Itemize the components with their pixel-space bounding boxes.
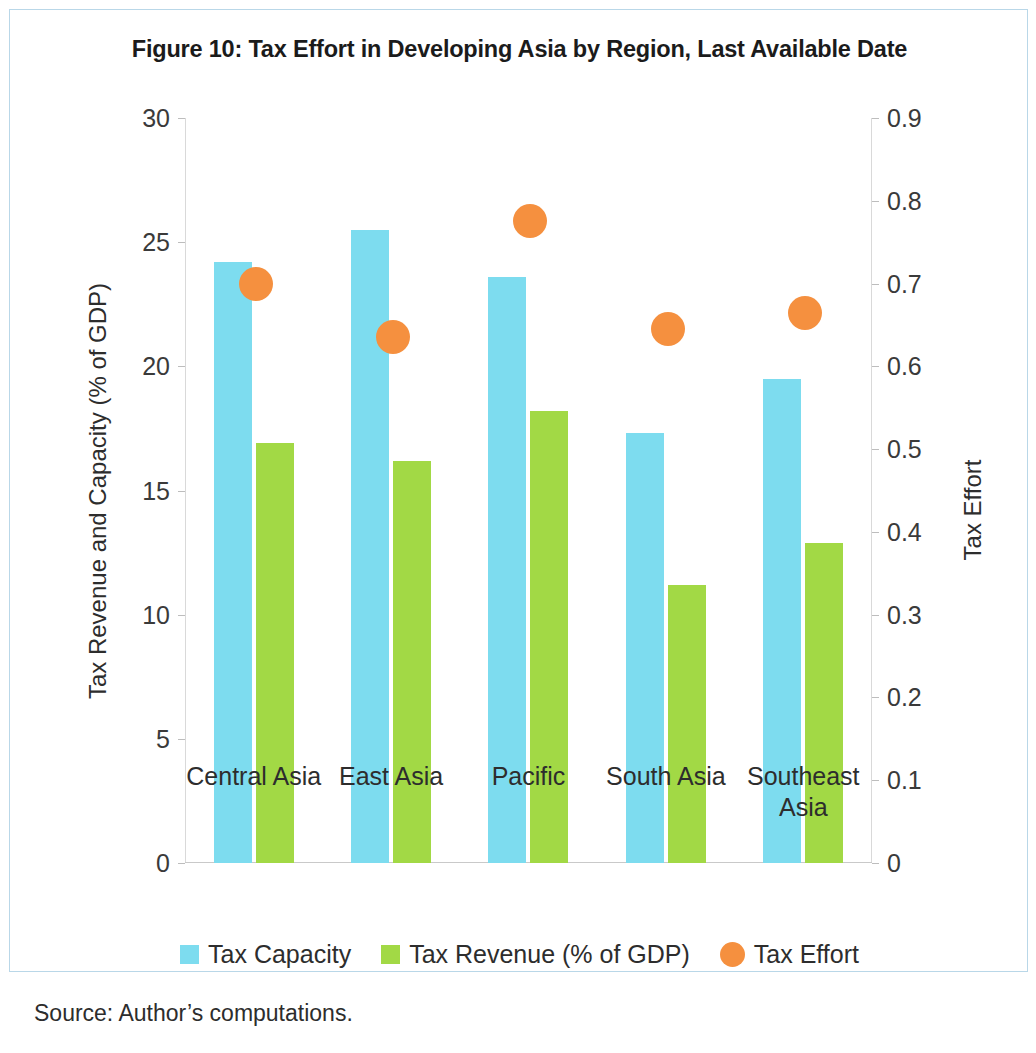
bar-group — [460, 118, 597, 863]
right-axis-tick — [872, 366, 879, 367]
legend-item: Tax Capacity — [180, 940, 351, 969]
right-axis-tick-label: 0.4 — [887, 517, 922, 546]
right-axis-tick-label: 0.2 — [887, 683, 922, 712]
right-axis-tick-label: 0.9 — [887, 104, 922, 133]
legend-square-icon — [180, 945, 199, 964]
right-axis-tick-label: 0.6 — [887, 352, 922, 381]
left-axis-tick-label: 0 — [156, 849, 170, 878]
bar-group — [185, 118, 322, 863]
dot-tax-effort — [651, 312, 685, 346]
bar-tax-capacity — [626, 433, 664, 863]
left-axis-tick-label: 15 — [142, 476, 170, 505]
bar-group — [322, 118, 459, 863]
left-axis-tick — [178, 491, 185, 492]
bar-tax-revenue — [668, 585, 706, 863]
bar-group — [597, 118, 734, 863]
figure-frame: Figure 10: Tax Effort in Developing Asia… — [9, 9, 1028, 972]
dot-tax-effort — [239, 267, 273, 301]
legend-label: Tax Capacity — [208, 940, 351, 969]
left-axis-title-text: Tax Revenue and Capacity (% of GDP) — [84, 282, 112, 698]
dot-tax-effort — [788, 296, 822, 330]
right-axis-tick — [872, 615, 879, 616]
left-axis-tick — [178, 739, 185, 740]
right-axis-tick-label: 0.7 — [887, 269, 922, 298]
figure-page: Figure 10: Tax Effort in Developing Asia… — [0, 0, 1036, 1053]
right-axis-tick — [872, 697, 879, 698]
right-axis-tick-label: 0.1 — [887, 766, 922, 795]
chart-legend: Tax CapacityTax Revenue (% of GDP)Tax Ef… — [10, 940, 1029, 969]
left-axis-tick-label: 25 — [142, 228, 170, 257]
bar-group — [735, 118, 872, 863]
right-axis-tick-label: 0.5 — [887, 435, 922, 464]
plot-area: 051015202530 00.10.20.30.40.50.60.70.80.… — [185, 118, 872, 863]
right-axis-tick — [872, 532, 879, 533]
right-axis-title: Tax Effort — [958, 390, 988, 630]
dot-tax-effort — [513, 204, 547, 238]
right-axis-tick — [872, 449, 879, 450]
bar-tax-revenue — [530, 411, 568, 863]
left-axis-tick-label: 10 — [142, 600, 170, 629]
legend-item: Tax Effort — [720, 940, 859, 969]
left-axis-tick — [178, 242, 185, 243]
right-axis-tick — [872, 201, 879, 202]
figure-title: Figure 10: Tax Effort in Developing Asia… — [10, 36, 1029, 63]
legend-square-icon — [381, 945, 400, 964]
left-axis-tick-label: 5 — [156, 724, 170, 753]
source-note: Source: Author’s computations. — [34, 1000, 353, 1027]
left-axis-tick — [178, 366, 185, 367]
right-axis-tick-label: 0.8 — [887, 186, 922, 215]
right-axis-title-text: Tax Effort — [959, 460, 987, 561]
legend-label: Tax Revenue (% of GDP) — [409, 940, 690, 969]
dot-tax-effort — [376, 320, 410, 354]
right-axis-tick — [872, 863, 879, 864]
legend-item: Tax Revenue (% of GDP) — [381, 940, 690, 969]
bar-tax-revenue — [393, 461, 431, 863]
bar-tax-revenue — [256, 443, 294, 863]
left-axis-tick-label: 30 — [142, 104, 170, 133]
left-axis-title: Tax Revenue and Capacity (% of GDP) — [83, 118, 113, 863]
legend-circle-icon — [720, 942, 745, 967]
legend-label: Tax Effort — [754, 940, 859, 969]
left-axis-tick — [178, 863, 185, 864]
right-axis-tick-label: 0.3 — [887, 600, 922, 629]
right-axis-tick-label: 0 — [887, 849, 901, 878]
right-axis-tick — [872, 284, 879, 285]
left-axis-tick-label: 20 — [142, 352, 170, 381]
right-axis-tick — [872, 118, 879, 119]
left-axis-tick — [178, 118, 185, 119]
category-label: Southeast Asia — [715, 761, 892, 822]
left-axis-tick — [178, 615, 185, 616]
